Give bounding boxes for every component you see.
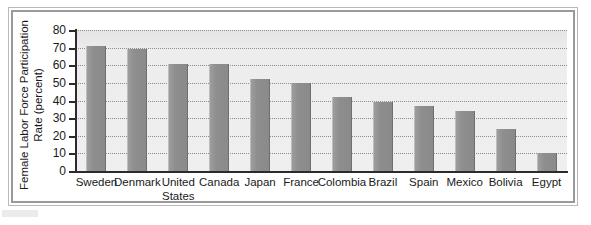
bar <box>537 153 557 171</box>
y-axis-tick-label: 50 <box>42 77 66 89</box>
y-axis-tick-label: 0 <box>42 165 66 177</box>
y-axis-tick <box>69 65 76 67</box>
y-axis-tick <box>69 83 76 85</box>
y-axis-tick <box>69 101 76 103</box>
x-axis-tick-label-line: Egypt <box>520 175 573 189</box>
y-axis-title-line-1: Female Labor Force Participation <box>17 20 31 190</box>
y-axis-tick-labels: 01020304050607080 <box>40 0 66 225</box>
bar <box>414 106 434 171</box>
gridline <box>76 153 567 154</box>
y-axis-tick <box>69 171 76 173</box>
y-axis-tick-label: 60 <box>42 59 66 71</box>
y-axis-tick-label: 30 <box>42 112 66 124</box>
bar <box>209 64 229 172</box>
plot-area <box>76 30 567 171</box>
y-axis-tick <box>69 48 76 50</box>
bar <box>168 64 188 172</box>
y-axis-tick-label: 70 <box>42 42 66 54</box>
y-axis-tick <box>69 153 76 155</box>
gridline <box>76 30 567 31</box>
x-axis-tick-labels: SwedenDenmarkUnitedStatesCanadaJapanFran… <box>76 175 567 205</box>
y-axis-tick <box>69 118 76 120</box>
bar <box>373 102 393 171</box>
y-axis-tick-label: 80 <box>42 24 66 36</box>
y-axis-tick-label: 40 <box>42 95 66 107</box>
bar <box>86 46 106 171</box>
scan-artifact <box>2 210 38 217</box>
y-axis-tick <box>69 30 76 32</box>
bar <box>332 97 352 171</box>
x-axis-tick-label-line: States <box>152 189 205 203</box>
x-axis-line <box>75 171 568 173</box>
gridline <box>76 48 567 49</box>
gridline <box>76 118 567 119</box>
bar <box>455 111 475 171</box>
gridline <box>76 136 567 137</box>
chart-figure: Female Labor Force Participation Rate (p… <box>0 0 591 225</box>
bar <box>496 129 516 171</box>
gridline <box>76 83 567 84</box>
x-axis-tick-label: Egypt <box>520 175 573 189</box>
gridline <box>76 101 567 102</box>
gridline <box>76 65 567 66</box>
y-axis-tick <box>69 136 76 138</box>
bar <box>250 79 270 171</box>
y-axis-tick-label: 20 <box>42 130 66 142</box>
bar <box>127 49 147 171</box>
bar <box>291 83 311 171</box>
y-axis-tick-label: 10 <box>42 147 66 159</box>
